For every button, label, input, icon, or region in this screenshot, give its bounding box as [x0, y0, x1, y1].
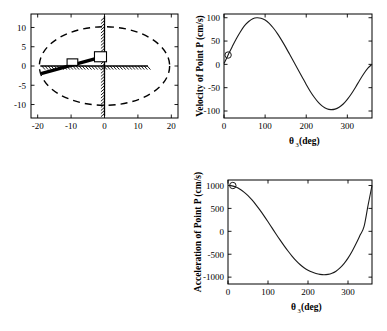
velocity-axes-box: [224, 14, 372, 118]
acceleration-curve: [228, 186, 372, 275]
acceleration-xtick-label: 200: [301, 287, 315, 297]
velocity-ytick-label: 50: [211, 36, 221, 46]
acceleration-xtick-label: 300: [341, 287, 355, 297]
velocity-svg: 0100200300100500-50-100θ3 (deg)Velocity …: [192, 0, 387, 165]
velocity-ytick-label: -50: [208, 83, 220, 93]
mechanism-xtick-label: 20: [167, 121, 177, 131]
velocity-ylabel: Velocity of Point P (cm/s): [195, 15, 206, 117]
acceleration-xlabel-theta: θ: [291, 302, 296, 312]
acceleration-ytick-label: 500: [211, 204, 225, 214]
mechanism-xtick-label: -20: [32, 121, 44, 131]
mechanism-svg: -20-10010201050-5-10: [0, 0, 195, 165]
velocity-ytick-label: 100: [207, 13, 221, 23]
velocity-xtick-label: 100: [258, 121, 272, 131]
mechanism-ytick-label: -5: [19, 81, 27, 91]
mechanism-ytick-label: 10: [17, 23, 27, 33]
slider-a: [67, 59, 78, 66]
horizontal-guide-hatch: [147, 66, 150, 70]
acceleration-xtick-label: 0: [226, 287, 231, 297]
acceleration-plot-panel: 010020030010005000-500-1000θ3 (deg)Accel…: [192, 165, 387, 331]
velocity-xtick-label: 300: [341, 121, 355, 131]
acceleration-xtick-label: 100: [261, 287, 275, 297]
velocity-plot-panel: 0100200300100500-50-100θ3 (deg)Velocity …: [192, 0, 387, 165]
velocity-ytick-label: -100: [204, 106, 221, 116]
velocity-ytick-label: 0: [216, 60, 221, 70]
velocity-xtick-label: 200: [299, 121, 313, 131]
mechanism-plot-panel: -20-10010201050-5-10: [0, 0, 195, 165]
velocity-xlabel-unit: (deg): [299, 136, 320, 147]
acceleration-axes-box: [228, 180, 372, 284]
mechanism-xtick-label: -10: [65, 121, 77, 131]
mechanism-ytick-label: -10: [14, 100, 26, 110]
velocity-xtick-label: 0: [222, 121, 227, 131]
acceleration-svg: 010020030010005000-500-1000θ3 (deg)Accel…: [192, 165, 387, 331]
figure-root: -20-10010201050-5-10 0100200300100500-50…: [0, 0, 387, 331]
acceleration-ytick-label: 0: [220, 227, 225, 237]
acceleration-ytick-label: 1000: [206, 181, 225, 191]
acceleration-ytick-label: -500: [208, 250, 225, 260]
mechanism-ytick-label: 5: [22, 42, 27, 52]
mechanism-xtick-label: 10: [133, 121, 143, 131]
velocity-curve: [224, 18, 372, 110]
velocity-xlabel-theta: θ: [289, 136, 294, 146]
mechanism-xtick-label: 0: [102, 121, 107, 131]
slider-b: [94, 52, 106, 62]
acceleration-ylabel: Acceleration of Point P (cm/s): [193, 172, 204, 292]
acceleration-ytick-label: -1000: [203, 272, 224, 282]
mechanism-ytick-label: 0: [22, 61, 27, 71]
acceleration-xlabel-unit: (deg): [301, 302, 322, 313]
